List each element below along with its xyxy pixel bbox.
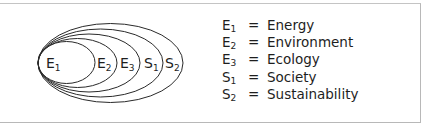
legend-term: Energy xyxy=(267,17,314,34)
legend-equals: = xyxy=(248,34,267,51)
legend-term: Society xyxy=(267,69,317,86)
legend: E1 = Energy E2 = Environment E3 = Ecolog… xyxy=(222,17,358,103)
legend-equals: = xyxy=(248,51,267,68)
label-e2: E2 xyxy=(97,55,112,73)
legend-symbol: E2 xyxy=(222,34,248,51)
legend-term: Ecology xyxy=(267,51,320,68)
nested-ellipses-diagram: E1 E2 E3 S1 S2 xyxy=(0,0,438,133)
legend-symbol: S2 xyxy=(222,86,248,103)
legend-equals: = xyxy=(248,69,267,86)
legend-item-ecology: E3 = Ecology xyxy=(222,51,358,68)
legend-item-environment: E2 = Environment xyxy=(222,34,358,51)
legend-symbol: E3 xyxy=(222,51,248,68)
legend-term: Sustainability xyxy=(267,86,358,103)
legend-equals: = xyxy=(248,86,267,103)
legend-symbol: E1 xyxy=(222,17,248,34)
label-e3: E3 xyxy=(120,55,135,73)
label-s1: S1 xyxy=(144,55,159,73)
label-s2: S2 xyxy=(165,55,180,73)
legend-term: Environment xyxy=(267,34,353,51)
legend-equals: = xyxy=(248,17,267,34)
legend-item-society: S1 = Society xyxy=(222,69,358,86)
label-e1: E1 xyxy=(46,55,61,73)
legend-item-energy: E1 = Energy xyxy=(222,17,358,34)
legend-item-sustainability: S2 = Sustainability xyxy=(222,86,358,103)
legend-symbol: S1 xyxy=(222,69,248,86)
